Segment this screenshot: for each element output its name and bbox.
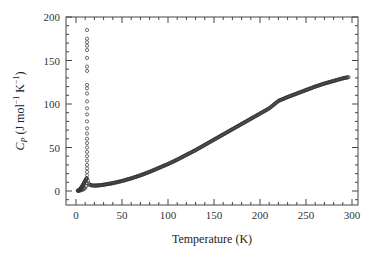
- y-tick-label: 100: [44, 98, 61, 110]
- data-point: [85, 146, 88, 149]
- data-point: [85, 37, 88, 40]
- x-tick-label: 100: [160, 209, 177, 221]
- data-point: [85, 167, 88, 170]
- data-point: [85, 41, 88, 44]
- data-point: [85, 65, 88, 68]
- data-point: [85, 83, 88, 86]
- x-tick-label: 0: [73, 209, 79, 221]
- x-tick-label: 50: [117, 209, 129, 221]
- chart: 050100150200250300 050100150200 Temperat…: [0, 0, 380, 257]
- data-point: [85, 113, 88, 116]
- data-point: [85, 56, 88, 59]
- x-tick-labels: 050100150200250300: [73, 209, 361, 221]
- data-point: [85, 87, 88, 90]
- data-point: [85, 92, 88, 95]
- data-points: [76, 28, 350, 192]
- data-point: [85, 48, 88, 51]
- data-point: [85, 69, 88, 72]
- x-tick-label: 300: [344, 209, 361, 221]
- data-point: [85, 120, 88, 123]
- data-point: [85, 127, 88, 130]
- y-axis-title: CP (J mol−1 K−1): [12, 72, 29, 151]
- data-point: [85, 28, 88, 31]
- data-point: [85, 132, 88, 135]
- data-point: [85, 163, 88, 166]
- axis-ticks: [66, 17, 358, 205]
- plot-frame: [66, 17, 358, 205]
- data-point: [85, 100, 88, 103]
- y-tick-label: 200: [44, 11, 61, 23]
- x-tick-label: 150: [206, 209, 223, 221]
- data-point: [85, 170, 88, 173]
- x-tick-label: 200: [252, 209, 269, 221]
- data-point: [85, 137, 88, 140]
- data-point: [85, 150, 88, 153]
- data-point: [85, 155, 88, 158]
- data-point: [85, 159, 88, 162]
- data-point: [85, 107, 88, 110]
- x-axis-title: Temperature (K): [172, 232, 252, 246]
- data-point: [85, 44, 88, 47]
- x-tick-label: 250: [298, 209, 315, 221]
- y-tick-label: 150: [44, 55, 61, 67]
- data-point: [85, 142, 88, 145]
- y-tick-label: 50: [49, 142, 61, 154]
- y-tick-label: 0: [55, 185, 61, 197]
- y-tick-labels: 050100150200: [44, 11, 61, 197]
